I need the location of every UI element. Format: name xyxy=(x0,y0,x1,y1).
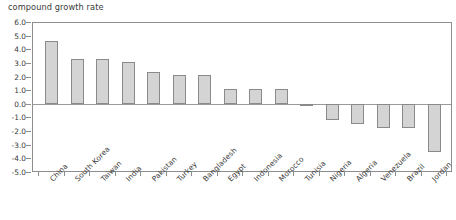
y-axis-tick-label: -4.0 xyxy=(0,154,26,163)
x-axis-tick-mark xyxy=(166,172,167,176)
x-axis-tick-mark xyxy=(217,172,218,176)
x-axis-tick-mark xyxy=(140,172,141,176)
y-axis-tick-mark xyxy=(26,117,31,118)
bar xyxy=(45,41,58,104)
y-axis-tick-label: 0.0 xyxy=(0,99,26,108)
bar xyxy=(377,104,390,129)
y-axis-tick-mark xyxy=(26,77,31,78)
y-axis-tick-label: 2.0 xyxy=(0,72,26,81)
bar xyxy=(96,59,109,104)
y-axis-tick-mark xyxy=(26,131,31,132)
x-axis-tick-mark xyxy=(344,172,345,176)
y-axis-tick-label: 1.0 xyxy=(0,86,26,95)
y-axis-tick-mark xyxy=(26,104,31,105)
chart-container: compound growth rate 6.05.04.03.02.01.00… xyxy=(0,0,456,220)
y-axis-tick-label: -2.0 xyxy=(0,127,26,136)
x-axis-tick-mark xyxy=(38,172,39,176)
x-axis-tick-mark xyxy=(242,172,243,176)
y-axis-tick-label: -5.0 xyxy=(0,168,26,177)
x-axis-tick-mark xyxy=(64,172,65,176)
x-axis-tick-mark xyxy=(293,172,294,176)
x-axis-tick-mark xyxy=(370,172,371,176)
bar xyxy=(198,75,211,104)
bar xyxy=(173,75,186,104)
x-axis-tick-mark xyxy=(115,172,116,176)
x-axis-tick-mark xyxy=(446,172,447,176)
y-axis-tick-mark xyxy=(26,49,31,50)
bar xyxy=(147,72,160,103)
bar xyxy=(300,104,313,106)
bar xyxy=(122,62,135,104)
x-axis-tick-mark xyxy=(395,172,396,176)
y-axis-tick-label: -3.0 xyxy=(0,140,26,149)
y-axis-tick-label: 6.0 xyxy=(0,18,26,27)
x-axis-tick-mark xyxy=(319,172,320,176)
bar xyxy=(249,89,262,104)
y-axis-tick-mark xyxy=(26,22,31,23)
y-axis-tick-mark xyxy=(26,158,31,159)
y-axis-tick-mark xyxy=(26,63,31,64)
bar xyxy=(402,104,415,129)
y-axis-tick-label: 5.0 xyxy=(0,31,26,40)
plot-area xyxy=(32,22,452,172)
bar xyxy=(71,59,84,104)
bar xyxy=(326,104,339,120)
bar xyxy=(351,104,364,124)
y-axis-tick-mark xyxy=(26,90,31,91)
bar xyxy=(224,89,237,104)
y-axis-tick-mark xyxy=(26,172,31,173)
x-axis-tick-mark xyxy=(191,172,192,176)
y-axis-tick-mark xyxy=(26,145,31,146)
x-axis-tick-mark xyxy=(421,172,422,176)
bar xyxy=(428,104,441,152)
y-axis-tick-label: 4.0 xyxy=(0,45,26,54)
y-axis: 6.05.04.03.02.01.00.0-1.0-2.0-3.0-4.0-5.… xyxy=(0,0,32,220)
x-axis-tick-mark xyxy=(89,172,90,176)
x-axis-tick-mark xyxy=(268,172,269,176)
y-axis-tick-label: -1.0 xyxy=(0,113,26,122)
y-axis-tick-mark xyxy=(26,36,31,37)
bar xyxy=(275,89,288,104)
y-axis-tick-label: 3.0 xyxy=(0,58,26,67)
